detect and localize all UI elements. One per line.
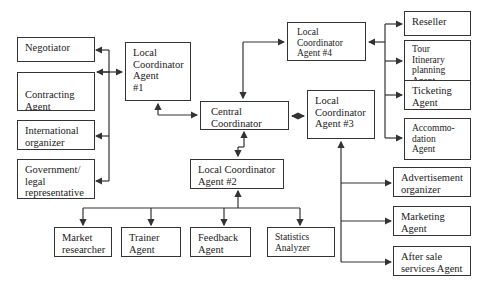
node-central-coordinator: Central Coordinator: [200, 101, 289, 130]
node-label: Agent: [133, 70, 183, 82]
node-marketing-agent: Marketing Agent: [393, 206, 471, 236]
node-feedback-agent: Feedback Agent: [190, 227, 251, 257]
node-label: Coordinator: [297, 38, 358, 49]
node-label: legal: [25, 176, 87, 188]
node-label: Trainer: [129, 232, 173, 244]
node-label: Coordinator: [133, 59, 183, 71]
node-label: #1: [133, 82, 183, 94]
node-label: Agent #4: [297, 48, 358, 59]
node-label: researcher: [62, 244, 104, 256]
node-label: Agent #2: [198, 176, 276, 188]
node-market-researcher: Market researcher: [54, 227, 112, 257]
node-label: organizer: [401, 184, 463, 196]
node-label: Statistics: [275, 232, 327, 243]
node-local-coordinator-agent-2: Local Coordinator Agent #2: [190, 159, 284, 189]
node-label: representative: [25, 187, 87, 199]
node-label: Government/: [25, 164, 87, 176]
node-after-sale-services-agent: After sale services Agent: [393, 246, 471, 276]
node-ticketing-agent: Ticketing Agent: [404, 80, 471, 110]
node-label: Agent: [412, 144, 463, 155]
node-label: Advertisement: [401, 172, 463, 184]
node-trainer-agent: Trainer Agent: [121, 227, 181, 257]
node-label: Local Coordinator: [198, 164, 276, 176]
node-label: Feedback: [198, 232, 243, 244]
node-international-organizer: International organizer: [17, 120, 95, 150]
node-label: services Agent: [401, 263, 463, 275]
node-label: Agent: [25, 101, 87, 112]
node-label: Agent: [129, 244, 173, 256]
node-reseller: Reseller: [404, 11, 471, 36]
node-label: International: [25, 125, 87, 137]
node-label: Agent: [401, 223, 463, 235]
node-label: Local: [315, 95, 367, 107]
node-label: Local: [297, 27, 358, 38]
node-label: organizer: [25, 137, 87, 149]
node-label: Analyzer: [275, 243, 327, 254]
node-label: Agent #3: [315, 118, 367, 130]
node-local-coordinator-agent-3: Local Coordinator Agent #3: [307, 90, 375, 139]
node-statistics-analyzer: Statistics Analyzer: [267, 227, 335, 257]
node-label: planning: [412, 65, 463, 76]
node-label: After sale: [401, 251, 463, 263]
node-tour-itinerary-planning-agent: Tour Itinerary planning Agent: [404, 40, 471, 81]
node-label: Central: [211, 106, 281, 118]
node-label: Agent: [198, 244, 243, 256]
node-negotiator: Negotiator: [17, 37, 95, 62]
node-label: dation: [412, 134, 463, 145]
node-advertisement-organizer: Advertisement organizer: [393, 167, 471, 197]
node-label: Coordinator: [315, 107, 367, 119]
node-label: Contracting: [25, 89, 87, 101]
node-local-coordinator-agent-1: Local Coordinator Agent #1: [125, 42, 191, 101]
node-label: Marketing: [401, 211, 463, 223]
node-label: Agent: [412, 97, 463, 109]
node-label: Accommo-: [412, 123, 463, 134]
node-label: Tour Itinerary: [412, 44, 463, 65]
node-accommodation-agent: Accommo- dation Agent: [404, 118, 471, 160]
node-label: Market: [62, 232, 104, 244]
node-label: Local: [133, 47, 183, 59]
node-label: Coordinator: [211, 118, 281, 130]
node-contracting-agent: Contracting Agent: [17, 72, 95, 111]
node-local-coordinator-agent-4: Local Coordinator Agent #4: [287, 22, 366, 61]
node-label: Ticketing: [412, 85, 463, 97]
node-government-legal-representative: Government/ legal representative: [17, 159, 95, 199]
node-label: Negotiator: [25, 42, 87, 54]
node-label: Reseller: [412, 16, 463, 28]
